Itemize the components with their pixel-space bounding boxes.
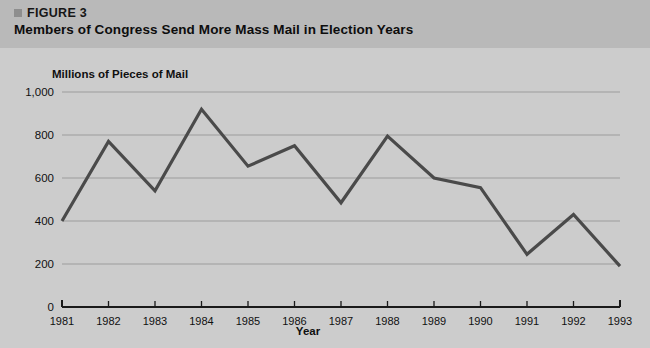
x-axis-title-wrap: Year bbox=[0, 325, 650, 337]
figure-card: FIGURE 3 Members of Congress Send More M… bbox=[0, 0, 650, 348]
y-tick-label-1000: 1,000 bbox=[25, 86, 54, 98]
y-tick-label-0: 0 bbox=[48, 301, 54, 313]
line-chart: 1,000 800 600 400 200 0 bbox=[0, 48, 650, 348]
x-axis-title: Year bbox=[296, 325, 320, 337]
y-tick-label-800: 800 bbox=[35, 129, 54, 141]
y-tick-label-600: 600 bbox=[35, 172, 54, 184]
figure-header-band: FIGURE 3 Members of Congress Send More M… bbox=[0, 0, 650, 48]
y-axis-tick-labels: 1,000 800 600 400 200 0 bbox=[25, 86, 54, 313]
gridlines bbox=[62, 92, 620, 264]
figure-label-row: FIGURE 3 bbox=[14, 6, 87, 20]
y-tick-label-400: 400 bbox=[35, 215, 54, 227]
square-bullet-icon bbox=[14, 9, 22, 17]
figure-title: Members of Congress Send More Mass Mail … bbox=[14, 22, 413, 37]
data-series-line bbox=[62, 109, 620, 266]
y-tick-label-200: 200 bbox=[35, 258, 54, 270]
plot-area: Millions of Pieces of Mail 1,000 800 600… bbox=[0, 48, 650, 348]
figure-number-label: FIGURE 3 bbox=[27, 6, 87, 20]
